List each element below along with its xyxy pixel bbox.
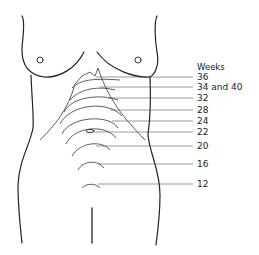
right-nipple bbox=[135, 57, 141, 63]
fundal-height-diagram bbox=[0, 0, 259, 255]
label-34-40: 34 and 40 bbox=[197, 82, 243, 92]
right-torso-outline bbox=[97, 16, 158, 77]
label-36: 36 bbox=[197, 72, 208, 82]
weeks-title: Weeks bbox=[197, 62, 225, 72]
label-22: 22 bbox=[197, 127, 208, 137]
label-32: 32 bbox=[197, 93, 208, 103]
label-12: 12 bbox=[197, 179, 208, 189]
label-20: 20 bbox=[197, 141, 208, 151]
label-24: 24 bbox=[197, 116, 208, 126]
left-torso-outline bbox=[22, 16, 84, 77]
left-nipple bbox=[37, 57, 43, 63]
label-28: 28 bbox=[197, 105, 208, 115]
label-16: 16 bbox=[197, 159, 208, 169]
umbilicus bbox=[86, 129, 94, 132]
